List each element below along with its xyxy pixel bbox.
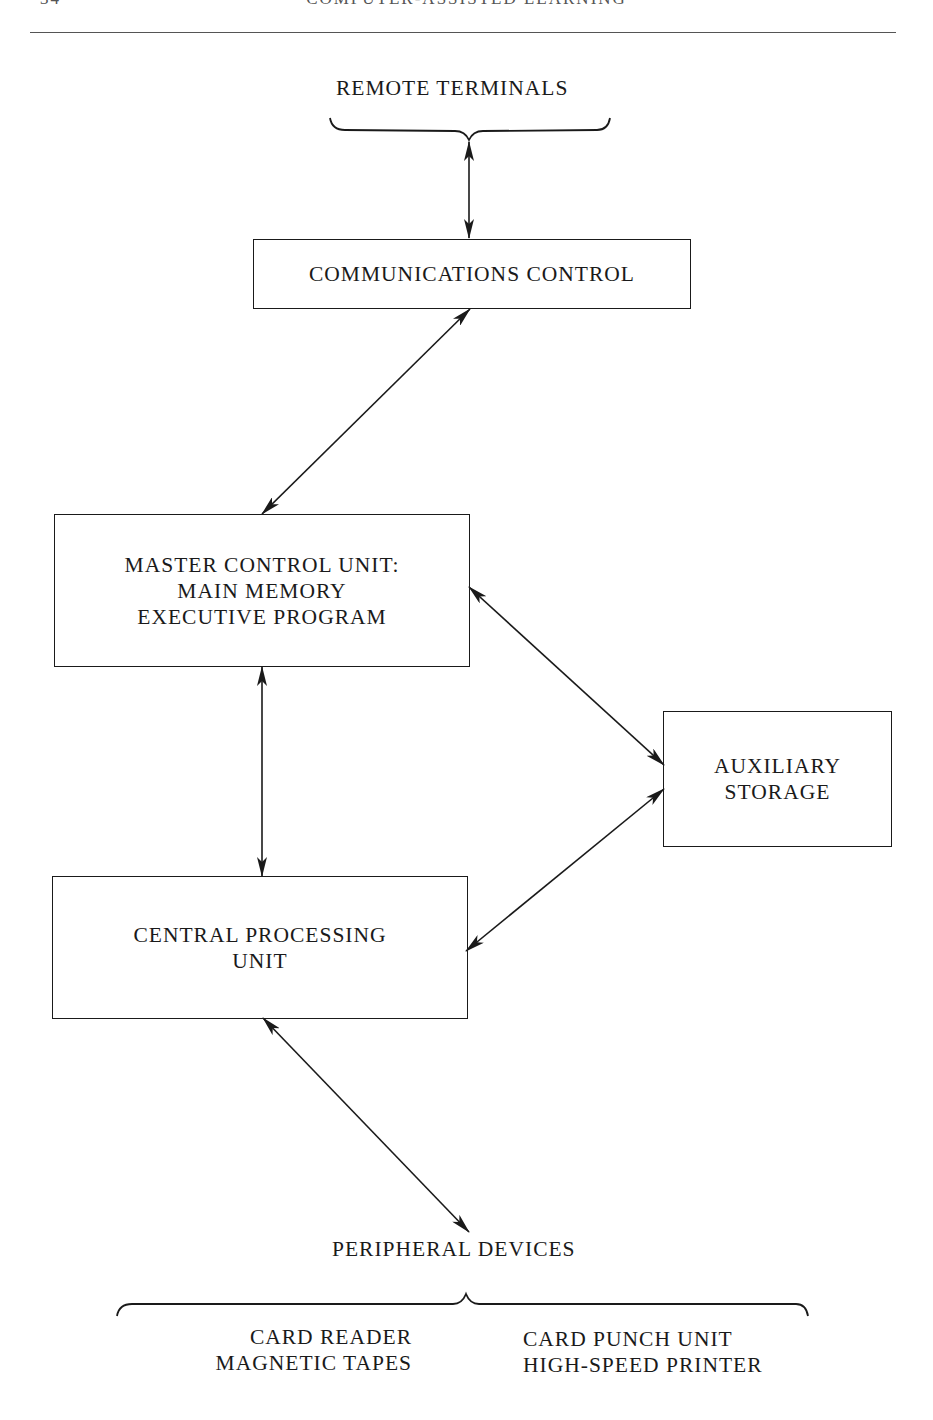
- connector-layer: [0, 0, 933, 1420]
- peripheral-card-reader: CARD READER: [150, 1324, 412, 1350]
- arrow-master-to-aux: [469, 587, 664, 765]
- auxiliary-storage-box: AUXILIARY STORAGE: [663, 711, 892, 847]
- master-control-line1: MASTER CONTROL UNIT:: [125, 552, 400, 578]
- communications-control-box: COMMUNICATIONS CONTROL: [253, 239, 691, 309]
- remote-terminals-label: REMOTE TERMINALS: [336, 75, 568, 101]
- remote-terminals-brace: [330, 118, 610, 140]
- master-control-line3: EXECUTIVE PROGRAM: [137, 604, 386, 630]
- master-control-line2: MAIN MEMORY: [177, 578, 346, 604]
- peripheral-magnetic-tapes: MAGNETIC TAPES: [150, 1350, 412, 1376]
- master-control-unit-box: MASTER CONTROL UNIT: MAIN MEMORY EXECUTI…: [54, 514, 470, 667]
- auxiliary-storage-line2: STORAGE: [725, 779, 831, 805]
- peripheral-right-list: CARD PUNCH UNIT HIGH-SPEED PRINTER: [523, 1326, 763, 1378]
- cpu-line1: CENTRAL PROCESSING: [133, 922, 386, 948]
- communications-control-label: COMMUNICATIONS CONTROL: [309, 261, 635, 287]
- peripheral-devices-brace: [117, 1294, 808, 1316]
- peripheral-left-list: CARD READER MAGNETIC TAPES: [150, 1324, 412, 1376]
- arrow-cpu-to-peripheral: [263, 1018, 469, 1232]
- peripheral-card-punch-unit: CARD PUNCH UNIT: [523, 1326, 763, 1352]
- auxiliary-storage-line1: AUXILIARY: [714, 753, 841, 779]
- arrow-comm-to-master: [262, 309, 470, 514]
- peripheral-high-speed-printer: HIGH-SPEED PRINTER: [523, 1352, 763, 1378]
- cpu-line2: UNIT: [232, 948, 287, 974]
- arrow-cpu-to-aux: [466, 789, 664, 951]
- central-processing-unit-box: CENTRAL PROCESSING UNIT: [52, 876, 468, 1019]
- peripheral-devices-label: PERIPHERAL DEVICES: [332, 1236, 576, 1262]
